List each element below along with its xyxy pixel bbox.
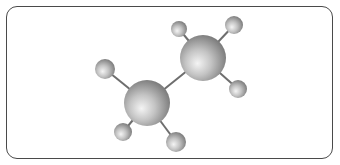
hydrogen-atom-h1: [95, 59, 115, 79]
hydrogen-atom-h4: [171, 21, 187, 37]
hydrogen-atom-h6: [229, 80, 247, 98]
carbon-atom-c2: [180, 35, 226, 81]
hydrogen-atom-h5: [225, 16, 243, 34]
hydrogen-atom-h2: [114, 123, 132, 141]
hydrogen-atom-h3: [166, 132, 186, 152]
ethane-molecule-diagram: [0, 0, 340, 165]
carbon-atom-c1: [124, 80, 170, 126]
